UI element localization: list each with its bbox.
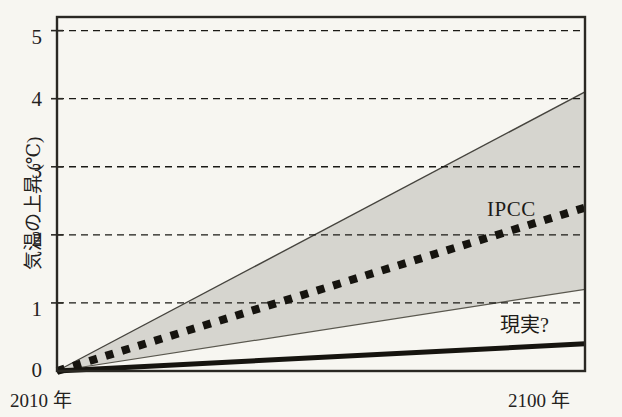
x-axis-start-label: 2010 年 <box>10 385 72 412</box>
reality-series-label: 現実? <box>500 309 549 338</box>
ytick-label-0: 0 <box>10 360 42 381</box>
ipcc-series-label: IPCC <box>487 197 536 222</box>
y-axis-title: 気温の上昇 (℃) <box>18 89 45 319</box>
temperature-projection-chart: 5 4 3 2 1 0 気温の上昇 (℃) 2010 年 2100 年 IPCC… <box>0 0 622 417</box>
ytick-label-5: 5 <box>10 27 42 48</box>
x-axis-end-label: 2100 年 <box>508 385 570 412</box>
